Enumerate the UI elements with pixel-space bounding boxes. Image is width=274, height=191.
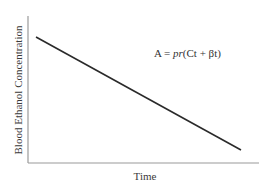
x-axis-label: Time bbox=[134, 170, 157, 182]
equation-suffix: (Ct + βt) bbox=[183, 47, 221, 59]
equation-prefix: A = bbox=[154, 47, 173, 59]
chart-plot bbox=[0, 0, 274, 191]
chart-container: Blood Ethanol Concentration Time A = pr(… bbox=[0, 0, 274, 191]
equation-annotation: A = pr(Ct + βt) bbox=[154, 47, 221, 59]
y-axis-label: Blood Ethanol Concentration bbox=[12, 26, 24, 155]
equation-italic: pr bbox=[173, 47, 183, 59]
